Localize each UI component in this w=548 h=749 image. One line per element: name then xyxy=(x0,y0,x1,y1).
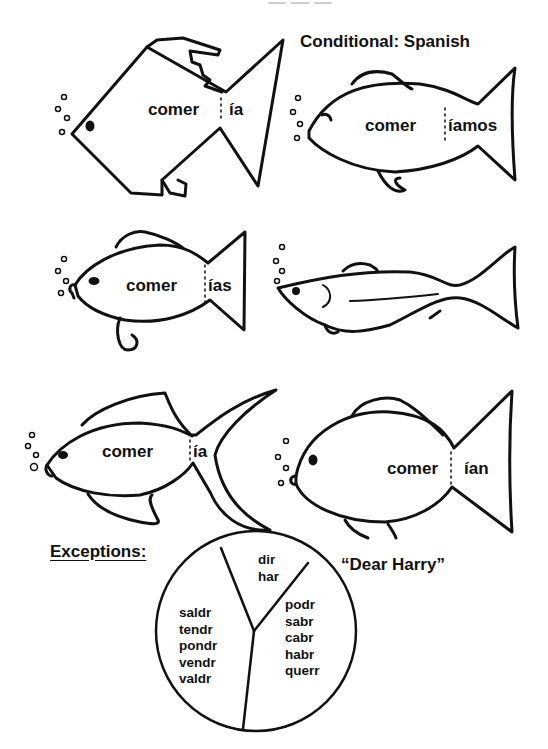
fish-3-ending: ías xyxy=(208,276,232,296)
pie-left-words: saldr tendr pondr vendr valdr xyxy=(179,605,217,688)
fish-6-ending: ían xyxy=(464,459,489,479)
fish-3-stem: comer xyxy=(126,276,177,296)
pie-word: cabr xyxy=(285,630,320,647)
fish-2-stem: comer xyxy=(365,116,416,136)
pie-word: querr xyxy=(285,663,320,680)
fish-1-ending: ía xyxy=(229,100,243,120)
fish-6-stem: comer xyxy=(387,459,438,479)
pie-word: vendr xyxy=(179,655,217,672)
fish-illustrations xyxy=(0,0,548,749)
pie-top-words: dir har xyxy=(258,552,279,585)
pie-word: habr xyxy=(285,647,320,664)
pie-word: pondr xyxy=(179,638,217,655)
page-title: Conditional: Spanish xyxy=(300,32,470,52)
fish-5-ending: ía xyxy=(193,442,207,462)
mnemonic-label: “Dear Harry” xyxy=(341,555,445,575)
pie-word: valdr xyxy=(179,671,217,688)
pie-word: dir xyxy=(258,552,279,569)
pie-right-words: podr sabr cabr habr querr xyxy=(285,597,320,680)
pie-word: saldr xyxy=(179,605,217,622)
fish-2-ending: íamos xyxy=(448,116,497,136)
fish-1-stem: comer xyxy=(148,100,199,120)
pie-word: tendr xyxy=(179,622,217,639)
faded-header-text: — — — xyxy=(268,0,332,13)
pie-word: podr xyxy=(285,597,320,614)
fish-4-slender xyxy=(274,245,519,334)
exceptions-heading: Exceptions: xyxy=(50,542,146,562)
fish-5-stem: comer xyxy=(102,442,153,462)
pie-word: sabr xyxy=(285,614,320,631)
pie-word: har xyxy=(258,569,279,586)
